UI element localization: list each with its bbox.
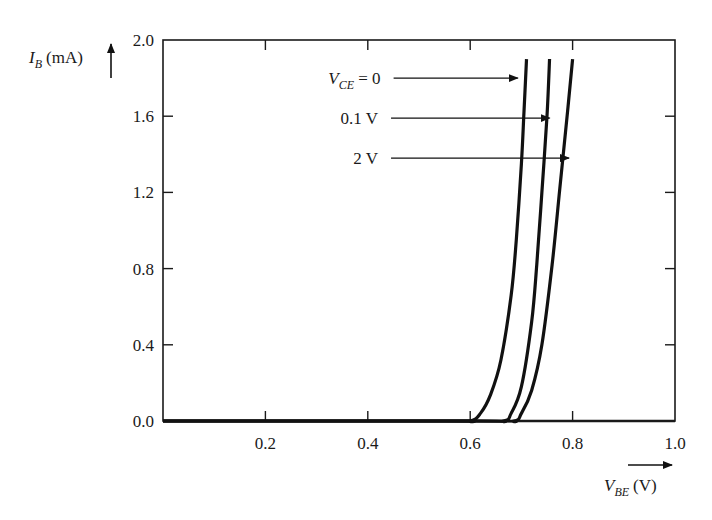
y-tick-label: 0.4 (133, 336, 155, 355)
vbe-ib-characteristic-chart: 0.00.40.81.21.62.0 0.20.40.60.81.0 VCE =… (0, 0, 712, 520)
y-tick-label: 2.0 (133, 31, 154, 50)
x-tick-label: 0.8 (562, 434, 583, 453)
x-axis-ticks: 0.20.40.60.81.0 (255, 40, 686, 453)
x-axis-unit: (V) (633, 476, 657, 495)
svg-text:VBE(V): VBE(V) (604, 476, 657, 499)
y-axis-subscript: B (35, 57, 43, 71)
series-label: VCE = 0 (328, 69, 380, 92)
x-axis-subscript: BE (614, 485, 629, 499)
x-tick-label: 0.2 (255, 434, 276, 453)
series-label: 2 V (353, 149, 378, 168)
y-tick-label: 1.6 (133, 107, 154, 126)
series-label: 0.1 V (341, 109, 379, 128)
series-annotations: VCE = 00.1 V2 V (328, 69, 569, 168)
y-tick-label: 0.0 (133, 412, 154, 431)
x-axis-title: VBE(V) (604, 465, 672, 499)
y-axis-unit: (mA) (46, 48, 83, 67)
y-tick-label: 1.2 (133, 183, 154, 202)
plot-frame (163, 40, 675, 421)
svg-text:IB(mA): IB(mA) (28, 48, 83, 71)
y-axis-ticks: 0.00.40.81.21.62.0 (133, 31, 675, 431)
y-axis-title: IB(mA) (28, 44, 111, 78)
x-tick-label: 0.4 (357, 434, 379, 453)
y-tick-label: 0.8 (133, 260, 154, 279)
x-tick-label: 1.0 (664, 434, 685, 453)
x-tick-label: 0.6 (460, 434, 481, 453)
